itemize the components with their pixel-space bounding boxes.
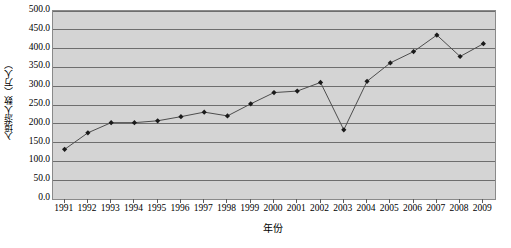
x-axis-tick-labels: 1991199219931994199519961997199819992000… <box>52 204 494 220</box>
data-point-marker <box>295 88 300 93</box>
y-axis-tick-labels: 0.050.0100.0150.0200.0250.0300.0350.0400… <box>14 0 52 208</box>
x-axis-tick-label: 1998 <box>217 204 236 214</box>
data-point-marker <box>202 110 207 115</box>
x-axis-tick-label: 2005 <box>380 204 399 214</box>
data-point-marker <box>109 120 114 125</box>
y-axis-tick-label: 50.0 <box>33 174 50 184</box>
x-axis-tick-label: 2007 <box>426 204 445 214</box>
y-axis-tick-label: 200.0 <box>29 118 50 128</box>
y-axis-tick-label: 150.0 <box>29 137 50 147</box>
x-axis-tick-label: 2003 <box>333 204 352 214</box>
y-axis-title-text: 入境游人数（万人） <box>4 60 13 141</box>
data-point-marker <box>225 113 230 118</box>
data-point-marker <box>481 41 486 46</box>
x-axis-tick-label: 2006 <box>403 204 422 214</box>
data-point-marker <box>132 120 137 125</box>
x-axis-title: 年份 <box>52 224 494 234</box>
x-axis-tick-label: 1995 <box>147 204 166 214</box>
x-axis-tick-label: 1991 <box>54 204 73 214</box>
y-axis-tick-label: 350.0 <box>29 62 50 72</box>
y-axis-tick-label: 500.0 <box>29 5 50 15</box>
x-axis-tick-label: 1996 <box>170 204 189 214</box>
x-axis-tick-label: 1993 <box>101 204 120 214</box>
line-chart: 入境游人数（万人） 0.050.0100.0150.0200.0250.0300… <box>0 0 511 248</box>
y-axis-tick-label: 300.0 <box>29 80 50 90</box>
x-axis-tick-label: 1992 <box>77 204 96 214</box>
x-axis-tick-label: 2004 <box>357 204 376 214</box>
data-point-marker <box>318 80 323 85</box>
x-axis-tick-label: 1997 <box>194 204 213 214</box>
data-point-marker <box>271 90 276 95</box>
x-axis-tick-label: 2008 <box>450 204 469 214</box>
y-axis-tick-label: 0.0 <box>38 193 50 203</box>
x-axis-tick-label: 2002 <box>310 204 329 214</box>
y-axis-tick-label: 100.0 <box>29 156 50 166</box>
plot-area <box>52 10 496 200</box>
x-axis-tick-label: 2009 <box>473 204 492 214</box>
y-axis-tick-label: 450.0 <box>29 24 50 34</box>
x-axis-tick-label: 1994 <box>124 204 143 214</box>
x-axis-tick-label: 2001 <box>287 204 306 214</box>
y-axis-tick-label: 400.0 <box>29 43 50 53</box>
data-point-marker <box>178 114 183 119</box>
y-axis-tick-label: 250.0 <box>29 99 50 109</box>
data-point-marker <box>341 127 346 132</box>
x-axis-tick-label: 2000 <box>264 204 283 214</box>
data-series <box>53 11 495 199</box>
data-point-marker <box>248 101 253 106</box>
x-axis-tick-label: 1999 <box>240 204 259 214</box>
data-point-marker <box>155 118 160 123</box>
